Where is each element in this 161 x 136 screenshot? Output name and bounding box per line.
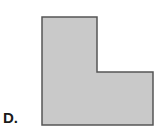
l-shape-figure xyxy=(0,0,161,136)
l-shape xyxy=(42,17,153,125)
